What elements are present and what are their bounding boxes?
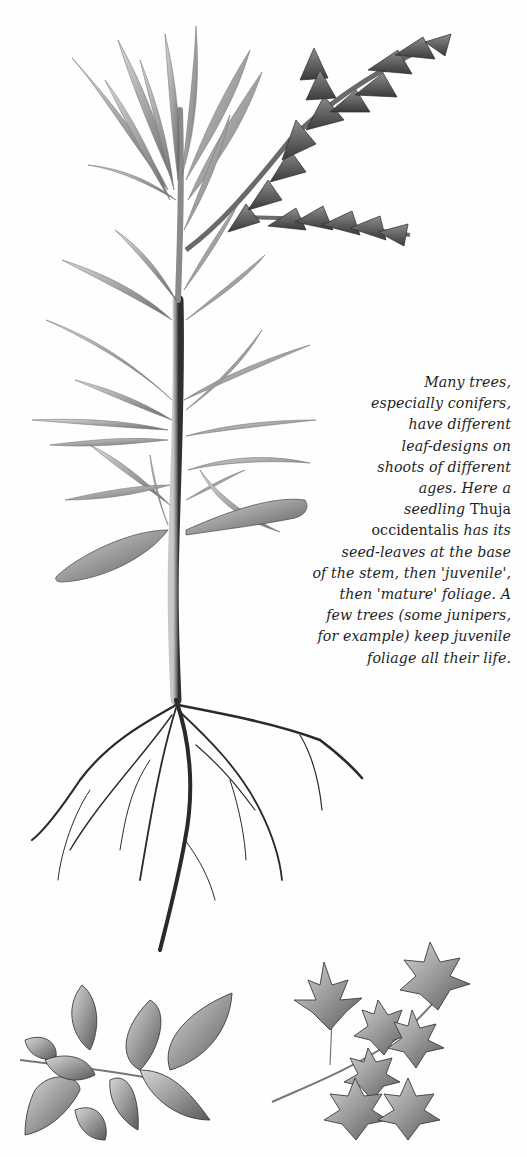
caption-line-3: have different: [211, 414, 511, 435]
caption-line-8: occidentalis has its: [211, 520, 511, 541]
caption-line-2: especially conifers,: [211, 393, 511, 414]
caption-line-13: for example) keep juvenile: [211, 626, 511, 647]
caption-line-11: then 'mature' foliage. A: [211, 584, 511, 605]
caption-text: seedling: [404, 501, 470, 517]
caption-text: leaf-designs on: [402, 438, 511, 454]
caption-line-7: seedling Thuja: [211, 499, 511, 520]
caption-line-12: few trees (some junipers,: [211, 605, 511, 626]
root-system: [32, 700, 362, 950]
species-name-genus: Thuja: [470, 501, 511, 517]
caption-line-9: seed-leaves at the base: [211, 542, 511, 563]
caption-line-1: Many trees,: [211, 372, 511, 393]
caption-line-14: foliage all their life.: [211, 648, 511, 669]
caption-text: have different: [409, 416, 511, 432]
caption-text: has its: [463, 522, 511, 538]
caption-text: for example) keep juvenile: [317, 628, 511, 644]
caption-text: of the stem, then 'juvenile',: [312, 565, 511, 581]
caption-line-4: leaf-designs on: [211, 436, 511, 457]
caption-line-6: ages. Here a: [211, 478, 511, 499]
caption-text: seed-leaves at the base: [342, 544, 511, 560]
maple-leaf-sprig-illustration: [272, 942, 470, 1140]
caption-text: ages. Here a: [419, 480, 511, 496]
page: Many trees, especially conifers, have di…: [0, 0, 527, 1157]
caption-text: then 'mature' foliage. A: [339, 586, 511, 602]
caption-line-5: shoots of different: [211, 457, 511, 478]
caption-text: few trees (some junipers,: [326, 607, 511, 623]
caption-text: especially conifers,: [371, 395, 511, 411]
species-name-epithet: occidentalis: [371, 522, 463, 538]
caption-text: foliage all their life.: [367, 650, 511, 666]
figure-caption: Many trees, especially conifers, have di…: [211, 372, 511, 669]
caption-line-10: of the stem, then 'juvenile',: [211, 563, 511, 584]
caption-text: shoots of different: [377, 459, 511, 475]
caption-text: Many trees,: [424, 374, 511, 390]
ovate-leaf-sprig-illustration: [20, 985, 232, 1140]
